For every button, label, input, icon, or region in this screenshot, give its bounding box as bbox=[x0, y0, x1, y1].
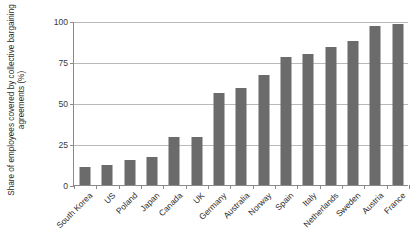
bar bbox=[281, 57, 292, 185]
bar-series bbox=[74, 22, 408, 185]
bar bbox=[236, 88, 247, 185]
x-tick-label: UK bbox=[192, 191, 207, 206]
y-tick-label: 75 bbox=[14, 59, 74, 68]
bar bbox=[147, 157, 158, 185]
x-tick-mark bbox=[364, 185, 365, 189]
x-tick-label: Austria bbox=[360, 191, 385, 216]
x-tick-mark bbox=[297, 185, 298, 189]
y-tick-label: 0 bbox=[14, 182, 74, 191]
bar-chart: Share of employees covered by collective… bbox=[0, 0, 419, 238]
bar-slot bbox=[297, 22, 319, 185]
bar bbox=[370, 26, 381, 185]
bar-slot bbox=[119, 22, 141, 185]
x-tick-mark bbox=[141, 185, 142, 189]
x-tick-label: South Korea bbox=[55, 191, 94, 230]
x-tick-label: Italy bbox=[301, 191, 318, 208]
x-tick-mark bbox=[275, 185, 276, 189]
x-tick-mark bbox=[230, 185, 231, 189]
bar-slot bbox=[186, 22, 208, 185]
bar-slot bbox=[74, 22, 96, 185]
bar-slot bbox=[163, 22, 185, 185]
bar bbox=[348, 41, 359, 185]
bar-slot bbox=[342, 22, 364, 185]
bar bbox=[191, 137, 202, 185]
bar-slot bbox=[387, 22, 409, 185]
x-tick-label: Canada bbox=[157, 191, 184, 218]
x-tick-mark bbox=[186, 185, 187, 189]
x-tick-label: France bbox=[382, 191, 407, 216]
bar bbox=[80, 167, 91, 185]
x-tick-mark bbox=[320, 185, 321, 189]
x-tick-label: Norway bbox=[247, 191, 273, 217]
x-tick-mark bbox=[208, 185, 209, 189]
bar-slot bbox=[208, 22, 230, 185]
bar bbox=[214, 93, 225, 185]
bar bbox=[325, 47, 336, 185]
bar bbox=[124, 160, 135, 185]
plot-area: 0255075100 South KoreaUSPolandJapanCanad… bbox=[73, 22, 408, 186]
bar-slot bbox=[320, 22, 342, 185]
bar bbox=[258, 75, 269, 185]
y-tick-label: 25 bbox=[14, 141, 74, 150]
x-tick-label: Poland bbox=[114, 191, 139, 216]
bar-slot bbox=[96, 22, 118, 185]
x-tick-label: US bbox=[102, 191, 117, 206]
bar-slot bbox=[253, 22, 275, 185]
x-tick-mark bbox=[74, 185, 75, 189]
bar-slot bbox=[364, 22, 386, 185]
y-tick-label: 50 bbox=[14, 100, 74, 109]
x-tick-mark bbox=[342, 185, 343, 189]
bar bbox=[102, 165, 113, 185]
y-tick-label: 100 bbox=[14, 18, 74, 27]
bar bbox=[303, 54, 314, 185]
x-tick-mark bbox=[96, 185, 97, 189]
x-tick-label: Spain bbox=[274, 191, 296, 213]
bar-slot bbox=[230, 22, 252, 185]
x-tick-mark bbox=[119, 185, 120, 189]
bar bbox=[169, 137, 180, 185]
x-tick-mark bbox=[253, 185, 254, 189]
bar-slot bbox=[275, 22, 297, 185]
x-tick-mark bbox=[387, 185, 388, 189]
x-tick-mark bbox=[409, 185, 410, 189]
bar bbox=[392, 24, 403, 185]
bar-slot bbox=[141, 22, 163, 185]
x-tick-mark bbox=[163, 185, 164, 189]
